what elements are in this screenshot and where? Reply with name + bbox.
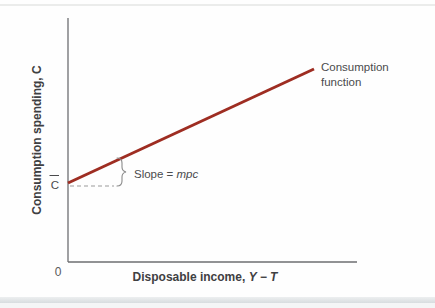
consumption-function-line: [68, 69, 314, 183]
x-axis-label: Disposable income, Y − T: [133, 270, 280, 284]
intercept-label: C: [51, 179, 59, 191]
consumption-function-label-line2: function: [321, 76, 361, 88]
origin-label: 0: [55, 265, 62, 279]
x-axis-label-variable: Y − T: [249, 270, 279, 284]
figure-canvas: Slope = mpc Consumptionfunction Consumpt…: [0, 0, 435, 308]
slope-label: Slope = mpc: [134, 168, 199, 180]
consumption-function-label: Consumptionfunction: [321, 61, 389, 88]
y-axis-label: Consumption spending, C: [30, 65, 44, 215]
slope-brace: [117, 158, 126, 186]
x-axis-label-prefix: Disposable income,: [133, 270, 249, 284]
slope-label-text: Slope =: [134, 168, 177, 180]
slope-label-mpc: mpc: [177, 168, 199, 180]
bottom-border-fade: [0, 303, 435, 308]
consumption-function-label-line1: Consumption: [321, 61, 389, 73]
consumption-chart-svg: Slope = mpc Consumptionfunction Consumpt…: [0, 0, 435, 308]
